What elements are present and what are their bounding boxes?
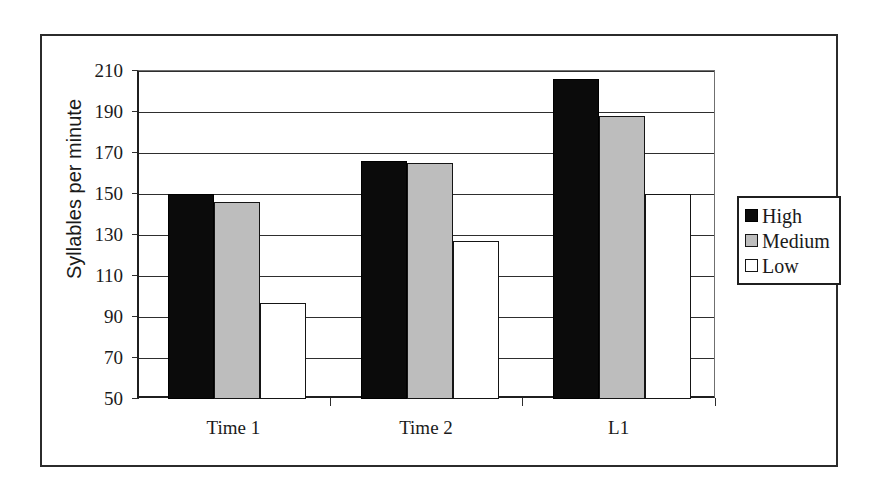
legend-label: Low: [762, 256, 799, 276]
y-axis-tick-label: 50: [53, 389, 123, 408]
x-axis-label-l1: L1: [539, 418, 699, 437]
bar-medium-time-1: [214, 202, 260, 399]
y-axis-tick-label: 70: [53, 348, 123, 367]
figure: Syllables per minute 5070901101301501701…: [0, 0, 878, 491]
legend-item-medium: Medium: [745, 228, 830, 253]
legend-item-low: Low: [745, 253, 830, 278]
legend: HighMediumLow: [737, 196, 841, 285]
x-axis-tick: [330, 398, 331, 406]
y-axis-tick-label: 210: [53, 61, 123, 80]
legend-swatch-high-icon: [745, 209, 758, 222]
y-axis-tick-label: 150: [53, 184, 123, 203]
y-axis-tick-label: 130: [53, 225, 123, 244]
bar-high-time-2: [361, 161, 407, 399]
bar-low-time-1: [260, 303, 306, 399]
y-axis-tick: [132, 398, 139, 399]
legend-swatch-low-icon: [745, 259, 758, 272]
bar-high-time-1: [168, 194, 214, 399]
legend-label: Medium: [762, 231, 830, 251]
y-axis-tick-label: 90: [53, 307, 123, 326]
gridline: [139, 112, 714, 113]
x-axis-label-time-1: Time 1: [153, 418, 313, 437]
bar-low-l1: [645, 194, 691, 399]
legend-swatch-medium-icon: [745, 234, 758, 247]
plot-area: [137, 70, 715, 398]
gridline: [139, 71, 714, 72]
y-axis-tick-label: 110: [53, 266, 123, 285]
bar-medium-time-2: [407, 163, 453, 399]
bar-high-l1: [553, 79, 599, 399]
bar-medium-l1: [599, 116, 645, 399]
x-axis-tick: [715, 398, 716, 406]
legend-label: High: [762, 206, 802, 226]
x-axis-tick: [522, 398, 523, 406]
y-axis-tick-label: 190: [53, 102, 123, 121]
legend-item-high: High: [745, 203, 830, 228]
x-axis-label-time-2: Time 2: [346, 418, 506, 437]
bar-low-time-2: [453, 241, 499, 399]
y-axis-tick-label: 170: [53, 143, 123, 162]
